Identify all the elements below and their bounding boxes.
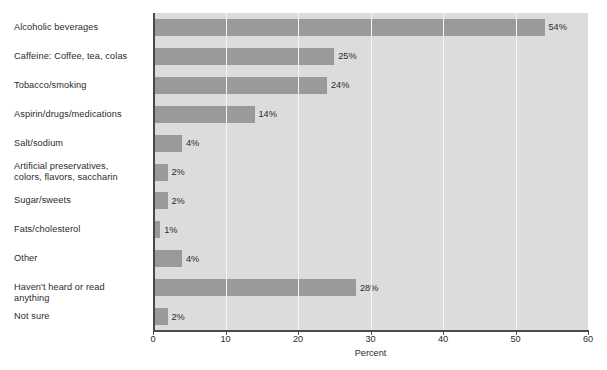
category-label: Sugar/sweets (14, 195, 142, 206)
category-label: Fats/cholesterol (14, 224, 142, 235)
x-tick-label: 60 (583, 334, 593, 345)
bar-value-label: 14% (255, 109, 277, 119)
category-label: Not sure (14, 311, 142, 322)
bar-value-label: 4% (182, 254, 199, 264)
category-label: Alcoholic beverages (14, 22, 142, 33)
bar-value-label: 24% (327, 80, 349, 90)
x-tick-label: 20 (293, 334, 303, 345)
x-tick-label: 40 (438, 334, 448, 345)
bar (153, 19, 545, 36)
bar-value-label: 2% (168, 167, 185, 177)
bar (153, 77, 327, 94)
gridline (516, 13, 517, 331)
bar-value-label: 2% (168, 312, 185, 322)
bar (153, 164, 168, 181)
bar-value-label: 4% (182, 138, 199, 148)
bar (153, 48, 334, 65)
gridline (371, 13, 372, 331)
bar (153, 192, 168, 209)
category-label: Artificial preservatives, colors, flavor… (14, 161, 142, 183)
gridline (443, 13, 444, 331)
x-tick-label: 0 (150, 334, 155, 345)
bar (153, 250, 182, 267)
category-label: Tobacco/smoking (14, 80, 142, 91)
bar-chart: Alcoholic beveragesCaffeine: Coffee, tea… (0, 0, 607, 370)
x-axis-title: Percent (355, 348, 387, 359)
bar (153, 106, 255, 123)
bar-value-label: 25% (334, 51, 356, 61)
y-axis-line (153, 13, 155, 331)
gridline (226, 13, 227, 331)
bar-value-label: 54% (545, 22, 567, 32)
bar (153, 135, 182, 152)
category-label: Salt/sodium (14, 138, 142, 149)
gridline (298, 13, 299, 331)
bar-value-label: 2% (168, 196, 185, 206)
category-label: Other (14, 253, 142, 264)
bar-value-label: 1% (160, 225, 177, 235)
x-tick-label: 10 (220, 334, 230, 345)
plot-inner: 54%25%24%14%4%2%2%1%4%28%2% (153, 13, 588, 331)
category-label: Caffeine: Coffee, tea, colas (14, 51, 142, 62)
category-label: Haven't heard or read anything (14, 282, 142, 304)
x-tick-label: 50 (510, 334, 520, 345)
bar-value-label: 28% (356, 283, 378, 293)
bar (153, 308, 168, 325)
x-tick-label: 30 (365, 334, 375, 345)
plot-area: 54%25%24%14%4%2%2%1%4%28%2% (153, 13, 588, 331)
bar (153, 279, 356, 296)
category-label: Aspirin/drugs/medications (14, 109, 142, 120)
category-labels: Alcoholic beveragesCaffeine: Coffee, tea… (0, 13, 146, 331)
